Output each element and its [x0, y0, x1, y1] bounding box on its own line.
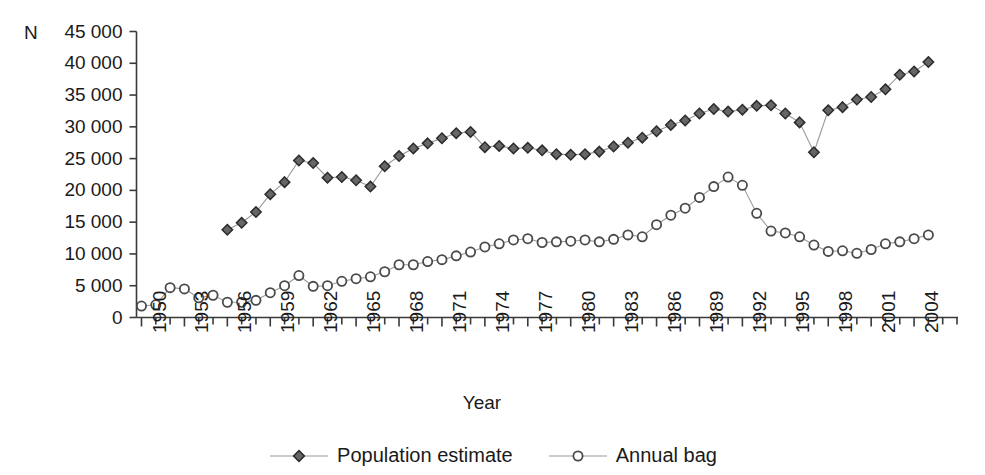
- data-point-marker: [495, 239, 504, 248]
- y-tick-label: 45 000: [0, 21, 123, 43]
- data-point-marker: [480, 242, 489, 251]
- x-axis-title: Year: [392, 392, 572, 414]
- data-point-marker: [766, 100, 776, 110]
- data-point-marker: [366, 272, 375, 281]
- legend-diamond-icon: [268, 447, 330, 465]
- legend-item[interactable]: Annual bag: [547, 444, 717, 467]
- data-point-marker: [323, 281, 332, 290]
- data-point-marker: [637, 132, 647, 142]
- x-tick-label: 1965: [363, 290, 385, 332]
- data-point-marker: [352, 274, 361, 283]
- data-point-marker: [222, 225, 232, 235]
- y-tick-label: 5 000: [0, 275, 123, 297]
- y-tick-label: 15 000: [0, 211, 123, 233]
- x-tick-label: 1986: [664, 290, 686, 332]
- data-point-marker: [580, 149, 590, 159]
- data-point-marker: [709, 182, 718, 191]
- data-point-marker: [909, 66, 919, 76]
- x-tick-label: 1974: [492, 290, 514, 332]
- data-point-marker: [866, 92, 876, 102]
- data-point-marker: [923, 57, 933, 67]
- data-point-marker: [337, 172, 347, 182]
- data-point-marker: [251, 207, 261, 217]
- data-point-marker: [180, 284, 189, 293]
- data-point-marker: [752, 101, 762, 111]
- y-tick-label: 35 000: [0, 84, 123, 106]
- data-point-marker: [394, 260, 403, 269]
- data-point-marker: [666, 120, 676, 130]
- y-tick-label: 20 000: [0, 179, 123, 201]
- data-point-marker: [766, 226, 775, 235]
- data-point-marker: [337, 277, 346, 286]
- data-point-marker: [551, 149, 561, 159]
- data-point-marker: [794, 117, 804, 127]
- data-point-marker: [909, 234, 918, 243]
- x-tick-label: 1968: [406, 290, 428, 332]
- data-point-marker: [537, 145, 547, 155]
- data-point-marker: [509, 235, 518, 244]
- data-point-marker: [608, 141, 618, 151]
- x-tick-label: 1998: [835, 290, 857, 332]
- data-point-marker: [881, 239, 890, 248]
- data-point-marker: [595, 237, 604, 246]
- x-tick-label: 1977: [535, 290, 557, 332]
- data-point-marker: [580, 235, 589, 244]
- data-point-marker: [809, 240, 818, 249]
- x-tick-label: 1992: [749, 290, 771, 332]
- x-tick-label: 1959: [277, 290, 299, 332]
- data-point-marker: [437, 133, 447, 143]
- data-point-marker: [309, 282, 318, 291]
- data-point-marker: [523, 143, 533, 153]
- x-tick-label: 1953: [191, 290, 213, 332]
- data-point-marker: [422, 138, 432, 148]
- data-point-marker: [508, 143, 518, 153]
- data-point-marker: [838, 246, 847, 255]
- data-point-marker: [824, 247, 833, 256]
- y-axis-ticks: [130, 32, 137, 318]
- data-point-marker: [280, 281, 289, 290]
- data-point-marker: [867, 245, 876, 254]
- data-point-marker: [652, 220, 661, 229]
- x-tick-label: 1962: [320, 290, 342, 332]
- legend-label: Annual bag: [616, 444, 717, 467]
- data-point-marker: [837, 102, 847, 112]
- data-point-marker: [723, 172, 732, 181]
- data-point-marker: [666, 211, 675, 220]
- y-tick-label: 40 000: [0, 52, 123, 74]
- data-point-marker: [623, 138, 633, 148]
- data-point-marker: [437, 255, 446, 264]
- chart-legend: Population estimateAnnual bag: [0, 444, 985, 467]
- data-point-marker: [380, 161, 390, 171]
- data-point-marker: [380, 267, 389, 276]
- x-tick-label: 1950: [149, 290, 171, 332]
- data-point-marker: [738, 181, 747, 190]
- data-point-marker: [609, 235, 618, 244]
- data-point-marker: [294, 271, 303, 280]
- data-point-marker: [223, 298, 232, 307]
- data-point-marker: [780, 108, 790, 118]
- x-tick-label: 1980: [578, 290, 600, 332]
- data-point-marker: [638, 232, 647, 241]
- x-tick-label: 2001: [878, 290, 900, 332]
- x-tick-label: 1989: [706, 290, 728, 332]
- data-point-marker: [895, 237, 904, 246]
- x-tick-label: 1956: [234, 290, 256, 332]
- legend-item[interactable]: Population estimate: [268, 444, 513, 467]
- data-point-marker: [651, 126, 661, 136]
- y-tick-label: 25 000: [0, 148, 123, 170]
- data-point-marker: [466, 247, 475, 256]
- data-point-marker: [695, 193, 704, 202]
- data-point-marker: [681, 204, 690, 213]
- data-point-marker: [752, 209, 761, 218]
- data-point-marker: [538, 238, 547, 247]
- data-point-marker: [566, 150, 576, 160]
- data-point-marker: [723, 106, 733, 116]
- y-tick-label: 30 000: [0, 116, 123, 138]
- data-point-marker: [351, 175, 361, 185]
- y-tick-label: 10 000: [0, 243, 123, 265]
- data-point-marker: [737, 104, 747, 114]
- data-point-marker: [694, 108, 704, 118]
- data-point-marker: [423, 257, 432, 266]
- data-point-marker: [680, 115, 690, 125]
- data-point-marker: [809, 147, 819, 157]
